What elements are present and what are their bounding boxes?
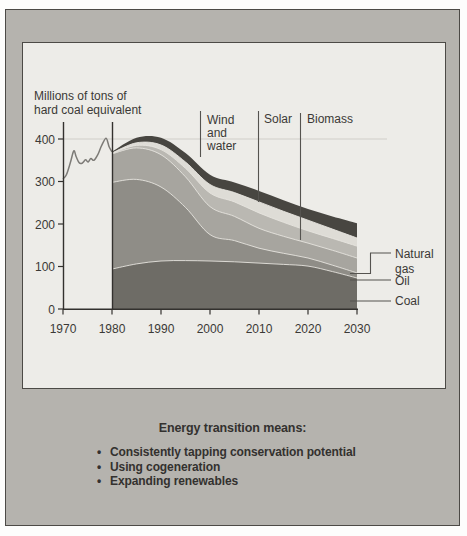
x-tick-label: 1980 (99, 322, 126, 336)
plot-area: 4003002001000197019801990200020102020203… (35, 122, 387, 336)
y-tick-label: 200 (35, 218, 55, 232)
y-tick-label: 300 (35, 175, 55, 189)
figure-frame: 4003002001000197019801990200020102020203… (5, 9, 460, 526)
x-tick-label: 2020 (295, 322, 322, 336)
figure-page: 4003002001000197019801990200020102020203… (0, 0, 467, 536)
wind-water-label-line1: Wind (207, 113, 234, 127)
caption-bullet-3-text: Expanding renewables (110, 474, 238, 488)
wind-water-label-line2: and (207, 126, 227, 140)
wind-water-label-line3: water (206, 139, 236, 153)
legend-oil-label: Oil (395, 274, 410, 288)
legend-coal-label: Coal (395, 294, 420, 308)
y-tick-label: 0 (48, 303, 55, 317)
caption-bullet-3: •Expanding renewables (97, 474, 458, 489)
caption-bullet-2-text: Using cogeneration (110, 460, 220, 474)
caption-bullet-2: •Using cogeneration (97, 460, 458, 475)
solar-label: Solar (264, 112, 292, 126)
bullet-dot: • (97, 474, 110, 489)
energy-chart: 4003002001000197019801990200020102020203… (23, 43, 447, 390)
caption-bullet-list: •Consistently tapping conservation poten… (7, 445, 458, 489)
bullet-dot: • (97, 445, 110, 460)
biomass-label: Biomass (307, 112, 353, 126)
caption-bullet-1: •Consistently tapping conservation poten… (97, 445, 458, 460)
y-tick-label: 400 (35, 133, 55, 147)
y-axis-title-line1: Millions of tons of (34, 89, 127, 103)
chart-panel: 4003002001000197019801990200020102020203… (22, 42, 446, 389)
legend-natural-gas-line1: Natural (395, 247, 434, 261)
historical-total-line (63, 138, 112, 179)
caption-block: Energy transition means: •Consistently t… (7, 421, 458, 489)
x-tick-label: 1970 (50, 322, 77, 336)
x-tick-label: 1990 (148, 322, 175, 336)
x-tick-label: 2010 (246, 322, 273, 336)
y-tick-label: 100 (35, 260, 55, 274)
x-tick-label: 2000 (197, 322, 224, 336)
bullet-dot: • (97, 460, 110, 475)
caption-bullet-1-text: Consistently tapping conservation potent… (110, 445, 356, 459)
caption-title: Energy transition means: (7, 421, 458, 435)
y-axis-title-line2: hard coal equivalent (34, 103, 142, 117)
x-tick-label: 2030 (344, 322, 371, 336)
